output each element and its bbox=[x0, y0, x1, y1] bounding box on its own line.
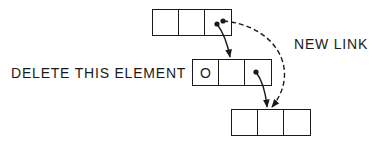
arrow-new-link bbox=[223, 21, 285, 107]
arrow-top-to-middle bbox=[217, 24, 230, 57]
arrow-middle-to-bottom bbox=[256, 72, 267, 107]
linked-list-deletion-diagram: DELETE THIS ELEMENT O NEW LINK bbox=[0, 0, 378, 146]
arrows-layer bbox=[0, 0, 378, 146]
